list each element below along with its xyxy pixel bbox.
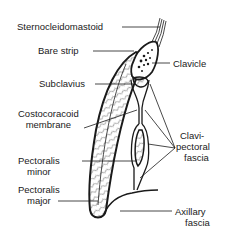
label-text: Clavicle [173, 58, 206, 69]
label-text-line1: Clavi- [176, 130, 210, 141]
label-clavipectoral-fascia: Clavi- pectoral fascia [176, 130, 210, 163]
label-axillary-fascia: Axillary fascia [175, 206, 210, 228]
label-text-line2: membrane [18, 119, 79, 130]
label-text-line2: minor [18, 166, 60, 177]
label-text-line1: Costocoracoid [18, 108, 79, 119]
label-text-line2: fascia [175, 217, 210, 228]
label-sternocleidomastoid: Sternocleidomastoid [17, 21, 103, 32]
label-bare-strip: Bare strip [38, 45, 79, 56]
label-text: Sternocleidomastoid [17, 21, 103, 32]
label-clavicle: Clavicle [173, 58, 206, 69]
label-text-line1: Pectoralis [18, 155, 60, 166]
label-text-line3: fascia [176, 152, 210, 163]
label-text: Subclavius [39, 78, 85, 89]
label-pectoralis-minor: Pectoralis minor [18, 155, 60, 177]
label-text-line1: Pectoralis [18, 184, 60, 195]
clavicle-bone [131, 42, 158, 80]
label-text-line2: major [18, 195, 60, 206]
label-costocoracoid-membrane: Costocoracoid membrane [18, 108, 79, 130]
subclavius-muscle [133, 77, 148, 87]
label-text-line2: pectoral [176, 141, 210, 152]
label-text: Bare strip [38, 45, 79, 56]
axillary-fascia-line [104, 190, 158, 214]
label-text-line1: Axillary [175, 206, 210, 217]
label-pectoralis-major: Pectoralis major [18, 184, 60, 206]
label-subclavius: Subclavius [39, 78, 85, 89]
